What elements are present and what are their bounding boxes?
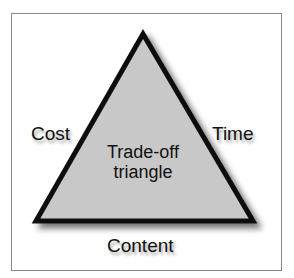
label-cost: Cost [31,124,70,143]
center-label-line2: triangle [93,162,193,182]
center-label-line1: Trade-off [93,142,193,162]
center-label: Trade-off triangle [93,142,193,182]
label-content: Content [107,236,174,255]
label-time: Time [212,124,254,143]
